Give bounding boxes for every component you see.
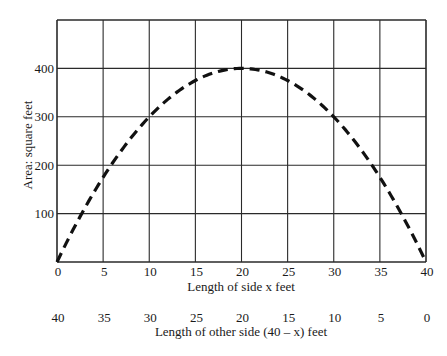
x-tick-label: 30 xyxy=(328,264,341,279)
y-axis-label: Area: square feet xyxy=(20,100,35,189)
secondary-x-tick-label: 15 xyxy=(282,310,295,325)
secondary-x-tick-label: 25 xyxy=(190,310,203,325)
y-tick-label: 400 xyxy=(35,61,55,76)
y-tick-label: 100 xyxy=(35,206,55,221)
secondary-x-tick-label: 20 xyxy=(236,310,249,325)
x-axis-label: Length of side x feet xyxy=(187,279,295,294)
x-tick-label: 15 xyxy=(190,264,203,279)
secondary-x-axis-label: Length of other side (40 – x) feet xyxy=(155,324,328,339)
secondary-x-axis-tick-labels: 4035302520151050 xyxy=(52,310,431,325)
x-tick-label: 10 xyxy=(144,264,157,279)
x-tick-label: 0 xyxy=(55,264,62,279)
x-tick-label: 35 xyxy=(374,264,387,279)
secondary-x-tick-label: 5 xyxy=(378,310,385,325)
y-tick-label: 200 xyxy=(35,158,55,173)
secondary-x-tick-label: 10 xyxy=(328,310,341,325)
x-axis-tick-labels: 0510152025303540 xyxy=(55,264,434,279)
x-tick-label: 25 xyxy=(282,264,295,279)
x-tick-label: 40 xyxy=(421,264,434,279)
x-tick-label: 20 xyxy=(236,264,249,279)
secondary-x-tick-label: 40 xyxy=(52,310,65,325)
secondary-x-tick-label: 0 xyxy=(424,310,431,325)
secondary-x-tick-label: 35 xyxy=(98,310,111,325)
secondary-x-tick-label: 30 xyxy=(144,310,157,325)
y-tick-label: 300 xyxy=(35,109,55,124)
x-tick-label: 5 xyxy=(101,264,108,279)
y-axis-tick-labels: 100200300400 xyxy=(35,61,55,221)
area-chart: 100200300400 0510152025303540 4035302520… xyxy=(0,0,447,356)
chart-grid xyxy=(57,20,426,262)
